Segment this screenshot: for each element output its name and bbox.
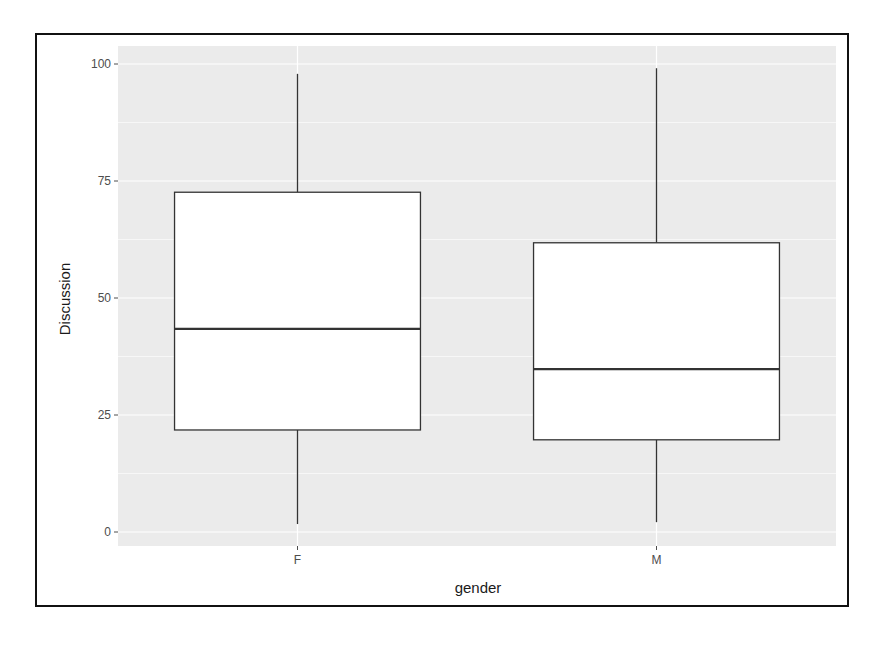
boxplot-chart: 0255075100 FM Discussion gender	[0, 0, 891, 645]
x-axis-title: gender	[455, 579, 502, 596]
iqr-box	[175, 192, 421, 430]
iqr-box	[534, 243, 780, 440]
x-tick-label: F	[294, 553, 301, 567]
y-tick-label: 100	[91, 57, 111, 71]
y-tick-label: 0	[104, 525, 111, 539]
x-tick-label: M	[652, 553, 662, 567]
y-axis-title: Discussion	[56, 263, 73, 336]
y-axis: 0255075100	[91, 57, 118, 539]
x-axis: FM	[294, 546, 662, 567]
y-tick-label: 75	[98, 174, 112, 188]
y-tick-label: 50	[98, 291, 112, 305]
y-tick-label: 25	[98, 408, 112, 422]
